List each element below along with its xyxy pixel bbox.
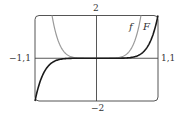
y-max-label: 2	[93, 4, 99, 13]
curve-F-label: F	[143, 22, 150, 32]
x-max-label: 1,1	[161, 54, 175, 63]
curve-f-label: f	[129, 22, 133, 32]
y-min-label: −2	[91, 104, 104, 113]
x-min-label: −1,1	[9, 54, 31, 63]
